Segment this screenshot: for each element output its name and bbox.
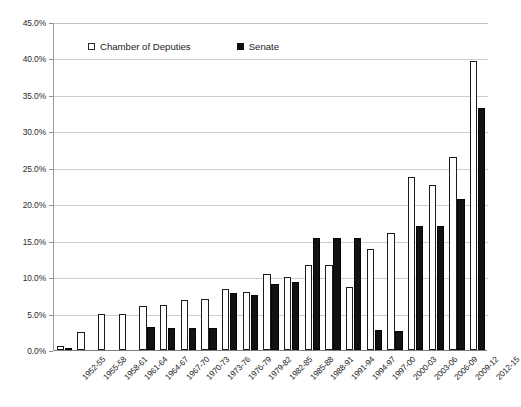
bar-group — [178, 23, 199, 350]
bar-deputies[interactable] — [160, 305, 167, 350]
bar-deputies[interactable] — [429, 185, 436, 350]
bar-group — [426, 23, 447, 350]
chart-legend: Chamber of Deputies Senate — [88, 41, 279, 52]
y-axis-tick-label: 10.0% — [0, 273, 46, 283]
bar-deputies[interactable] — [470, 61, 477, 350]
bar-senate[interactable] — [209, 328, 216, 350]
bar-deputies[interactable] — [222, 289, 229, 350]
bar-deputies[interactable] — [98, 314, 105, 350]
bar-deputies[interactable] — [325, 265, 332, 350]
bar-deputies[interactable] — [367, 249, 374, 350]
y-axis-tick-label: 30.0% — [0, 127, 46, 137]
y-axis-tick-label: 20.0% — [0, 200, 46, 210]
legend-label-chamber-of-deputies: Chamber of Deputies — [100, 41, 191, 52]
legend-label-senate: Senate — [249, 41, 279, 52]
bar-senate[interactable] — [65, 348, 72, 350]
bar-group — [219, 23, 240, 350]
bar-group — [116, 23, 137, 350]
bar-group — [54, 23, 75, 350]
bar-deputies[interactable] — [57, 346, 64, 350]
bar-group — [467, 23, 488, 350]
legend-item-senate[interactable]: Senate — [237, 41, 279, 52]
bar-senate[interactable] — [457, 199, 464, 350]
plot-area — [53, 23, 487, 351]
bar-group — [261, 23, 282, 350]
hollow-square-icon — [88, 43, 95, 50]
bar-senate[interactable] — [189, 328, 196, 350]
y-axis-tick-label: 45.0% — [0, 18, 46, 28]
bar-group — [343, 23, 364, 350]
bar-senate[interactable] — [416, 226, 423, 350]
y-axis-tick-label: 0.0% — [0, 346, 46, 356]
bar-deputies[interactable] — [201, 299, 208, 350]
bar-deputies[interactable] — [263, 274, 270, 350]
y-axis-tick-label: 40.0% — [0, 54, 46, 64]
bar-group — [364, 23, 385, 350]
bar-group — [385, 23, 406, 350]
bar-group — [302, 23, 323, 350]
bar-group — [75, 23, 96, 350]
legend-item-chamber-of-deputies[interactable]: Chamber of Deputies — [88, 41, 191, 52]
bar-senate[interactable] — [354, 238, 361, 350]
bar-deputies[interactable] — [387, 233, 394, 350]
bar-deputies[interactable] — [139, 306, 146, 350]
bar-senate[interactable] — [230, 293, 237, 350]
bar-group — [323, 23, 344, 350]
bar-senate[interactable] — [333, 238, 340, 350]
bar-senate[interactable] — [292, 282, 299, 350]
bar-deputies[interactable] — [119, 314, 126, 350]
bar-senate[interactable] — [478, 108, 485, 350]
bar-group — [199, 23, 220, 350]
bar-senate[interactable] — [395, 331, 402, 350]
bar-group — [447, 23, 468, 350]
bar-group — [137, 23, 158, 350]
bar-deputies[interactable] — [77, 332, 84, 350]
bar-deputies[interactable] — [305, 265, 312, 350]
bar-senate[interactable] — [168, 328, 175, 350]
bar-deputies[interactable] — [243, 292, 250, 350]
bar-senate[interactable] — [375, 330, 382, 350]
bar-deputies[interactable] — [181, 300, 188, 350]
bar-senate[interactable] — [437, 226, 444, 350]
bar-group — [157, 23, 178, 350]
bar-deputies[interactable] — [284, 277, 291, 350]
bar-group — [95, 23, 116, 350]
y-axis-tick-label: 15.0% — [0, 237, 46, 247]
bar-group — [405, 23, 426, 350]
y-axis-tick-label: 25.0% — [0, 164, 46, 174]
bar-senate[interactable] — [313, 238, 320, 350]
bar-deputies[interactable] — [449, 157, 456, 350]
y-axis-tick-label: 5.0% — [0, 310, 46, 320]
solid-square-icon — [237, 43, 244, 50]
bar-group — [281, 23, 302, 350]
bar-deputies[interactable] — [408, 177, 415, 350]
bar-senate[interactable] — [147, 327, 154, 350]
x-axis-labels: 1952-551955-581958-611961-641964-671967-… — [53, 352, 487, 407]
bar-group — [240, 23, 261, 350]
bar-deputies[interactable] — [346, 287, 353, 350]
bar-senate[interactable] — [271, 284, 278, 350]
bar-senate[interactable] — [251, 295, 258, 350]
y-axis-tick-label: 35.0% — [0, 91, 46, 101]
